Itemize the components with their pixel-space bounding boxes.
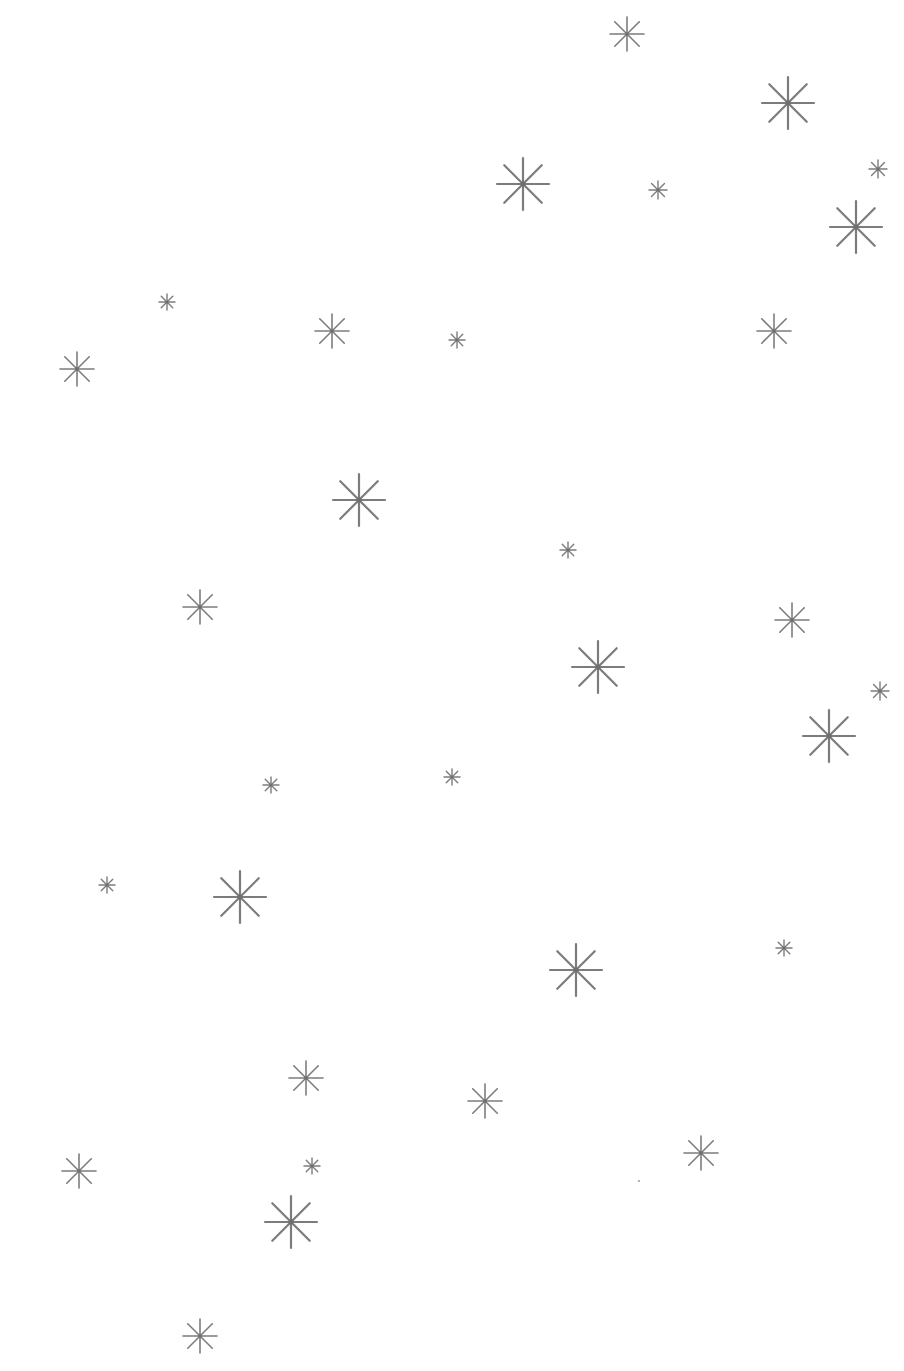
star-icon bbox=[449, 332, 465, 348]
star-icon bbox=[444, 769, 460, 785]
star-icon bbox=[803, 710, 855, 762]
star-icon bbox=[333, 474, 385, 526]
star-icon bbox=[871, 682, 889, 700]
star-icon bbox=[572, 641, 624, 693]
star-icon bbox=[757, 314, 791, 348]
star-icon bbox=[159, 294, 175, 310]
star-icon bbox=[289, 1061, 323, 1095]
star-icon bbox=[649, 181, 667, 199]
star-icon bbox=[776, 940, 792, 956]
star-icon bbox=[60, 352, 94, 386]
star-icon bbox=[610, 17, 644, 51]
speck-dot bbox=[638, 1180, 640, 1182]
star-icon bbox=[62, 1154, 96, 1188]
star-icon bbox=[99, 877, 115, 893]
star-icon bbox=[304, 1158, 320, 1174]
star-icon bbox=[775, 603, 809, 637]
star-icon bbox=[497, 158, 549, 210]
star-icon bbox=[183, 1319, 217, 1353]
star-icon bbox=[762, 77, 814, 129]
star-icon bbox=[183, 590, 217, 624]
star-icon bbox=[214, 871, 266, 923]
star-icon bbox=[315, 314, 349, 348]
star-icon bbox=[830, 201, 882, 253]
star-icon bbox=[468, 1084, 502, 1118]
star-icon bbox=[550, 944, 602, 996]
star-icon bbox=[684, 1136, 718, 1170]
star-icon bbox=[265, 1196, 317, 1248]
star-icon bbox=[560, 542, 576, 558]
star-icon bbox=[263, 777, 279, 793]
star-icon bbox=[869, 160, 887, 178]
